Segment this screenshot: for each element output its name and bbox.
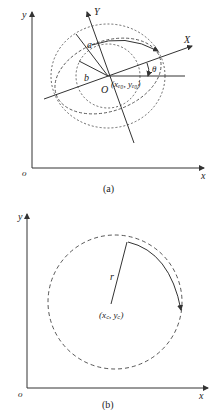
semi-minor-label: b bbox=[84, 72, 89, 83]
center-coords-label-a: (xₑ₀, yₑ₀) bbox=[111, 79, 140, 89]
rotation-arc-arrow-a bbox=[92, 40, 158, 51]
rotation-arc-arrow-b bbox=[128, 242, 181, 310]
axis-y-label-a: y bbox=[21, 9, 27, 20]
diagram-canvas: y x o X Y a b O (xₑ₀, yₑ₀) θ (a) y x o r… bbox=[0, 0, 224, 410]
theta-arc bbox=[147, 63, 149, 76]
axis-y-label-b: y bbox=[17, 211, 23, 222]
figure-b: y x o r (x꜀, y꜀) (b) bbox=[17, 211, 208, 410]
caption-a: (a) bbox=[103, 183, 114, 195]
axis-x-label-a: x bbox=[200, 170, 206, 181]
figure-a: y x o X Y a b O (xₑ₀, yₑ₀) θ (a) bbox=[21, 6, 206, 195]
rotated-y-axis bbox=[87, 12, 134, 143]
semi-major-label: a bbox=[87, 39, 92, 50]
rotated-x-axis bbox=[44, 46, 192, 99]
origin-label-b: o bbox=[18, 389, 23, 399]
origin-label-a: o bbox=[22, 168, 27, 178]
axis-x-label-b: x bbox=[198, 390, 204, 401]
rotated-x-label: X bbox=[183, 34, 191, 45]
semi-major-segment bbox=[76, 34, 108, 76]
center-label-a: O bbox=[101, 84, 108, 95]
angle-label: θ bbox=[152, 64, 157, 74]
center-coords-label-b: (x꜀, y꜀) bbox=[99, 310, 123, 320]
rotated-y-label: Y bbox=[94, 6, 101, 17]
dashed-circle-b bbox=[48, 235, 182, 369]
caption-b: (b) bbox=[102, 399, 114, 410]
radius-label: r bbox=[110, 271, 114, 282]
